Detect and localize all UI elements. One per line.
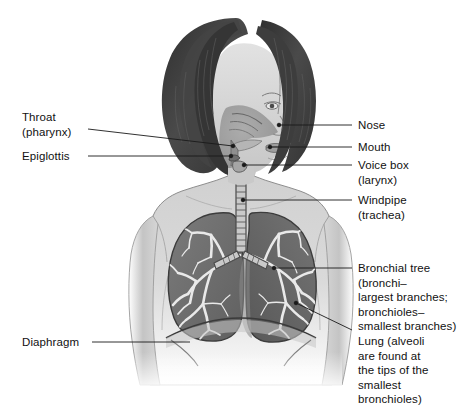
- label-bronchial-tree: Bronchial tree (bronchi– largest branche…: [358, 261, 456, 334]
- label-throat: Throat (pharynx): [22, 110, 71, 139]
- head: [162, 18, 316, 185]
- label-nose: Nose: [358, 118, 385, 133]
- label-mouth: Mouth: [358, 140, 390, 155]
- label-voice-box: Voice box (larynx): [358, 158, 409, 187]
- label-epiglottis: Epiglottis: [22, 149, 70, 164]
- label-windpipe: Windpipe (trachea): [358, 193, 407, 222]
- label-diaphragm: Diaphragm: [22, 335, 79, 350]
- label-lung: Lung (alveoli are found at the tips of t…: [358, 334, 429, 407]
